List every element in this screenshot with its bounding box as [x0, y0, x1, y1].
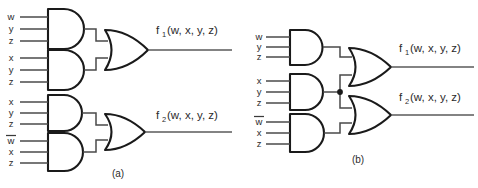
input-label-a-g1-i1: w — [7, 11, 15, 22]
input-label-b-g2-i1: x — [257, 75, 262, 86]
and-gate-b-2 — [266, 74, 323, 110]
output-f1-args: (w, x, y, z) — [167, 24, 218, 36]
input-label-a-g1-i2: y — [9, 23, 14, 34]
input-label-a-g2-i3: z — [9, 76, 14, 87]
input-label-b-g3-i1: w — [255, 116, 263, 127]
interconnect-b — [323, 47, 352, 133]
input-label-a-g2-i2: y — [9, 64, 14, 75]
output-b-f1-sub: 1 — [405, 48, 409, 57]
and-gate-a-3 — [20, 95, 82, 131]
input-label-b-g2-i2: y — [257, 86, 262, 97]
panel-a: w y z x y z x y z w x — [6, 9, 232, 179]
output-b-f2-sub: 2 — [405, 97, 409, 106]
input-label-b-g2-i3: z — [257, 97, 262, 108]
and-gate-a-1 — [20, 9, 84, 49]
or-gate-b-2 — [349, 96, 391, 134]
output-b-f2-name: f — [399, 91, 403, 103]
output-f1-sub: 1 — [162, 30, 166, 39]
input-label-a-g4-i3: z — [9, 157, 14, 168]
and-gate-a-2 — [20, 50, 84, 90]
logic-circuit-figure: w y z x y z x y z w x — [0, 0, 478, 188]
wire-junction-dot-b — [337, 89, 343, 95]
and-gate-a-4 — [20, 133, 83, 171]
or-gate-b-1 — [349, 48, 391, 86]
input-label-a-g4-i1: w — [7, 135, 15, 146]
input-label-a-g3-i3: z — [9, 118, 14, 129]
or-gate-a-2 — [105, 114, 145, 150]
output-b-f1-name: f — [399, 42, 403, 54]
or-gate-a-1 — [105, 30, 148, 70]
input-label-a-g3-i1: x — [9, 96, 14, 107]
output-label-a-f1: f 1 (w, x, y, z) — [156, 24, 218, 39]
output-label-b-f2: f 2 (w, x, y, z) — [399, 91, 461, 106]
panel-caption-a: (a) — [112, 168, 124, 179]
panel-b: w y z x y z w x z — [254, 30, 474, 165]
output-b-f1-args: (w, x, y, z) — [410, 42, 461, 54]
output-f2-sub: 2 — [162, 115, 166, 124]
and-gate-b-1 — [266, 30, 323, 65]
output-f1-name: f — [156, 24, 160, 36]
input-label-a-g4-i2: x — [9, 146, 14, 157]
interconnect-a-or2 — [82, 113, 108, 152]
output-f2-args: (w, x, y, z) — [167, 109, 218, 121]
panel-caption-b: (b) — [352, 154, 364, 165]
input-label-a-g2-i1: x — [9, 52, 14, 63]
output-b-f2-args: (w, x, y, z) — [410, 91, 461, 103]
input-label-a-g3-i2: y — [9, 107, 14, 118]
input-label-b-g1-i3: z — [257, 51, 262, 62]
input-label-b-g3-i2: x — [257, 127, 262, 138]
output-f2-name: f — [156, 109, 160, 121]
and-gate-b-3 — [266, 114, 324, 152]
interconnect-a-or1 — [84, 29, 108, 70]
input-label-a-g1-i3: z — [9, 35, 14, 46]
output-label-b-f1: f 1 (w, x, y, z) — [399, 42, 461, 57]
output-label-a-f2: f 2 (w, x, y, z) — [156, 109, 218, 124]
input-label-b-g3-i3: z — [257, 138, 262, 149]
